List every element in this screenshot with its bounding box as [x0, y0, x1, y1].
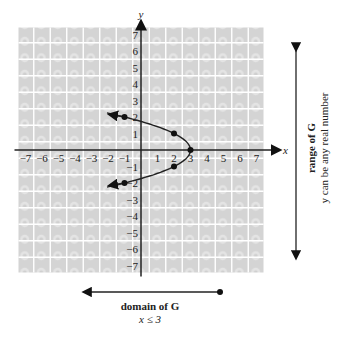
y-tick-label: −4	[126, 210, 138, 222]
y-tick-label: −2	[126, 177, 138, 189]
x-tick-label: −3	[86, 152, 98, 164]
x-tick-label: −7	[20, 152, 32, 164]
y-tick-label: 4	[133, 78, 139, 90]
y-tick-label: 3	[133, 95, 139, 107]
range-title: range of G	[305, 93, 318, 204]
x-tick-label: −4	[69, 152, 81, 164]
domain-arrow	[84, 289, 223, 295]
y-tick-label: −6	[126, 243, 138, 255]
y-tick-label: −1	[126, 161, 138, 173]
range-text: y can be any real number	[318, 93, 331, 204]
y-tick-label: 7	[133, 29, 139, 41]
y-tick-label: −3	[126, 194, 138, 206]
x-tick-label: −2	[102, 152, 114, 164]
range-label: range of G y can be any real number	[305, 93, 331, 204]
x-tick-label: −5	[53, 152, 65, 164]
data-point	[171, 131, 177, 137]
x-tick-label: −6	[36, 152, 48, 164]
domain-text: x ≤ 3	[121, 313, 180, 326]
x-axis-label: x	[282, 144, 288, 156]
y-tick-label: −7	[126, 260, 138, 272]
data-point	[188, 147, 194, 153]
graph: xy−7−6−5−4−3−2−11234567−7−6−5−4−3−2−1123…	[0, 0, 350, 339]
x-tick-label: 6	[237, 152, 243, 164]
y-tick-label: 2	[133, 111, 139, 123]
x-tick-label: 4	[204, 152, 210, 164]
y-tick-label: −5	[126, 227, 138, 239]
x-tick-label: 3	[188, 152, 194, 164]
x-tick-label: 7	[254, 152, 260, 164]
x-tick-label: 2	[171, 152, 177, 164]
y-axis-label: y	[138, 8, 144, 20]
data-point	[122, 114, 128, 120]
domain-endpoint-dot	[217, 289, 223, 295]
domain-label: domain of G x ≤ 3	[121, 300, 180, 326]
y-tick-label: 1	[133, 128, 139, 140]
x-tick-label: 1	[155, 152, 161, 164]
y-tick-label: 5	[133, 62, 139, 74]
domain-title: domain of G	[121, 300, 180, 313]
data-point	[171, 164, 177, 170]
data-point	[122, 180, 128, 186]
y-tick-label: 6	[133, 45, 139, 57]
x-tick-label: 5	[221, 152, 227, 164]
